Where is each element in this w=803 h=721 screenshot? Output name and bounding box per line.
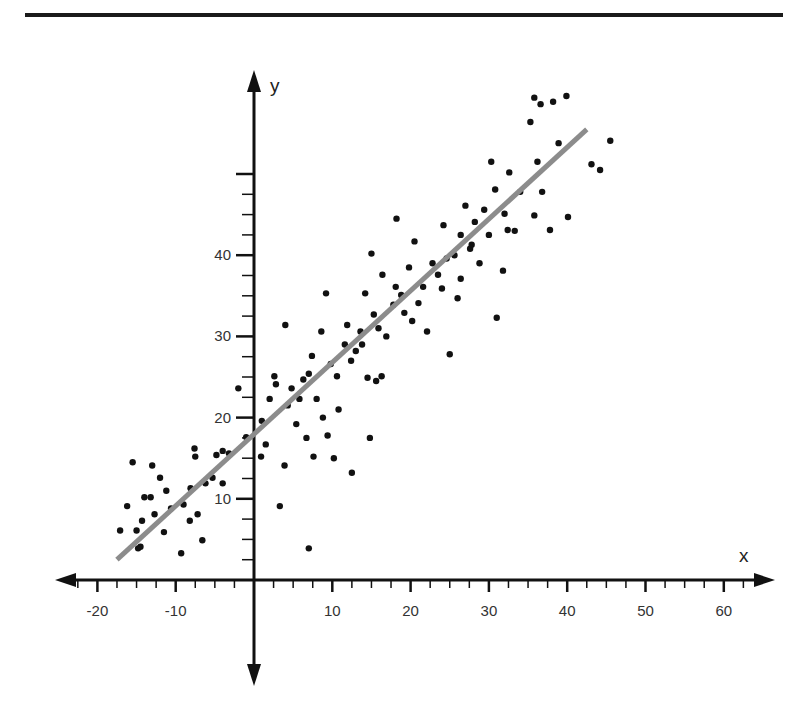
data-point	[213, 452, 219, 458]
data-point	[117, 527, 123, 533]
data-point	[406, 264, 412, 270]
data-point	[348, 358, 354, 364]
data-point	[219, 448, 225, 454]
data-point	[409, 318, 415, 324]
data-point	[378, 373, 384, 379]
data-point	[235, 385, 241, 391]
data-point	[458, 276, 464, 282]
data-point	[537, 101, 543, 107]
data-point	[534, 159, 540, 165]
x-axis-right-arrow-icon	[754, 573, 775, 587]
data-point	[318, 328, 324, 334]
data-point	[194, 511, 200, 517]
data-point	[439, 285, 445, 291]
data-point	[277, 503, 283, 509]
data-point	[379, 271, 385, 277]
data-point	[323, 290, 329, 296]
data-point	[454, 295, 460, 301]
regression-line	[117, 129, 587, 559]
data-point	[137, 544, 143, 550]
data-point	[303, 435, 309, 441]
data-point	[129, 459, 135, 465]
data-point	[401, 310, 407, 316]
data-point	[266, 396, 272, 402]
data-point	[500, 267, 506, 273]
data-points	[117, 93, 614, 557]
data-point	[281, 462, 287, 468]
data-point	[306, 371, 312, 377]
data-point	[373, 378, 379, 384]
data-point	[271, 373, 277, 379]
data-point	[512, 228, 518, 234]
data-point	[161, 529, 167, 535]
data-point	[364, 375, 370, 381]
data-point	[597, 167, 603, 173]
data-point	[367, 435, 373, 441]
data-point	[149, 462, 155, 468]
data-point	[133, 527, 139, 533]
x-axis-ticks: -20-10102030405060	[78, 580, 744, 619]
data-point	[331, 455, 337, 461]
data-point	[362, 290, 368, 296]
data-point	[435, 271, 441, 277]
data-point	[539, 189, 545, 195]
data-point	[486, 232, 492, 238]
data-point	[383, 333, 389, 339]
y-tick-label: 10	[214, 490, 231, 507]
data-point	[309, 353, 315, 359]
scatter-chart: -20-10102030405060 10203040 y x	[0, 0, 803, 721]
x-tick-label: -10	[165, 602, 187, 619]
data-point	[393, 215, 399, 221]
data-point	[163, 487, 169, 493]
data-point	[334, 373, 340, 379]
y-axis-up-arrow-icon	[247, 70, 261, 92]
data-point	[447, 351, 453, 357]
data-point	[141, 494, 147, 500]
data-point	[531, 94, 537, 100]
data-point	[191, 445, 197, 451]
x-tick-label: 20	[402, 602, 419, 619]
data-point	[424, 328, 430, 334]
data-point	[588, 161, 594, 167]
data-point	[375, 325, 381, 331]
data-point	[492, 186, 498, 192]
data-point	[547, 227, 553, 233]
data-point	[531, 212, 537, 218]
data-point	[293, 421, 299, 427]
data-point	[344, 322, 350, 328]
data-point	[504, 227, 510, 233]
x-tick-label: -20	[87, 602, 109, 619]
data-point	[310, 453, 316, 459]
data-point	[147, 494, 153, 500]
data-point	[527, 119, 533, 125]
y-tick-label: 30	[214, 327, 231, 344]
data-point	[371, 311, 377, 317]
data-point	[415, 300, 421, 306]
x-axis-left-arrow-icon	[55, 573, 76, 587]
data-point	[393, 284, 399, 290]
data-point	[359, 341, 365, 347]
data-point	[288, 385, 294, 391]
data-point	[476, 260, 482, 266]
x-tick-label: 30	[481, 602, 498, 619]
y-axis-ticks: 10203040	[214, 174, 254, 560]
x-tick-label: 60	[715, 602, 732, 619]
data-point	[488, 159, 494, 165]
data-point	[124, 503, 130, 509]
data-point	[139, 518, 145, 524]
data-point	[263, 441, 269, 447]
data-point	[151, 511, 157, 517]
data-point	[199, 537, 205, 543]
data-point	[353, 348, 359, 354]
data-point	[178, 550, 184, 556]
data-point	[282, 322, 288, 328]
data-point	[368, 250, 374, 256]
data-point	[306, 545, 312, 551]
data-point	[468, 241, 474, 247]
data-point	[481, 207, 487, 213]
data-point	[607, 138, 613, 144]
y-tick-label: 40	[214, 246, 231, 263]
x-tick-label: 10	[324, 602, 341, 619]
data-point	[458, 232, 464, 238]
data-point	[494, 315, 500, 321]
